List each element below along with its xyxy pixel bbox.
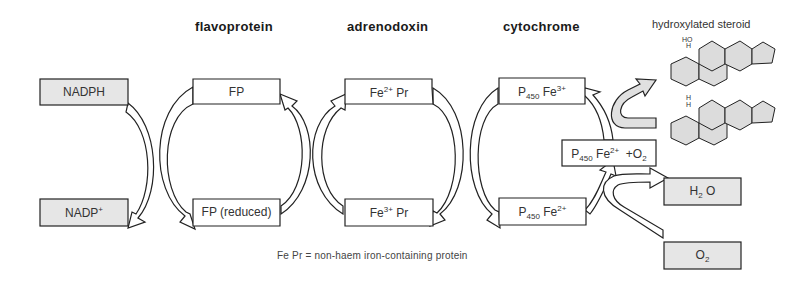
fe3-to-fe2-arrow — [313, 94, 346, 214]
nadp-label: NADP+ — [40, 205, 128, 220]
hydroxylated-steroid-label: hydroxylated steroid — [652, 18, 750, 30]
fe2-to-fe3-arrow — [430, 88, 463, 226]
steroid-hydroxylation-arrow — [611, 79, 656, 128]
fp-reduced-label: FP (reduced) — [193, 205, 280, 219]
footnote-fe-pr-definition: Fe Pr = non-haem iron-containing protein — [277, 250, 468, 261]
o2-label: O2 — [664, 248, 741, 264]
fe2-pr-label: Fe2+ Pr — [345, 85, 433, 100]
nadph-label: NADPH — [40, 85, 128, 99]
header-cytochrome: cytochrome — [503, 19, 580, 34]
nadph-to-nadp-arrow — [126, 103, 154, 228]
h2o-label: H2 O — [664, 184, 741, 200]
h-label-bottom-1: H — [686, 94, 691, 101]
fp-label: FP — [193, 85, 280, 99]
p450-fe2-label: P450 Fe2+ — [499, 204, 586, 221]
fpreduced-to-fp-arrow — [280, 94, 310, 214]
h-label-top: H — [686, 42, 691, 49]
fp-to-fpreduced-arrow — [160, 87, 195, 229]
p450fe3-to-p450fe2-arrow — [470, 88, 500, 228]
p450-o2-complex-label: P450 Fe2+ +O2 — [562, 146, 656, 163]
electron-transport-diagram: HO H H H — [0, 0, 796, 287]
p450-fe3-label: P450 Fe3+ — [499, 84, 585, 101]
header-flavoprotein: flavoprotein — [195, 19, 273, 34]
o2-to-h2o-arrow — [603, 168, 668, 238]
fe3-pr-label: Fe3+ Pr — [345, 205, 433, 220]
header-adrenodoxin: adrenodoxin — [347, 19, 428, 34]
h-label-bottom-2: H — [686, 101, 691, 108]
